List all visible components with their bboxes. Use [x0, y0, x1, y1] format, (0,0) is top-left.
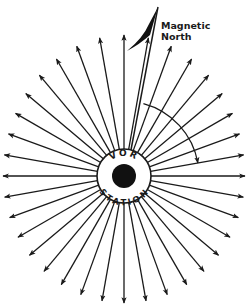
radial-arrow-340	[77, 46, 115, 150]
radial-arrow-190	[102, 203, 119, 301]
magnetic-north-label: Magnetic North	[161, 20, 210, 42]
bearing-arc	[143, 104, 197, 163]
station-dot	[112, 164, 136, 188]
radial-arrow-260	[5, 181, 98, 197]
radial-arrow-250	[10, 185, 99, 217]
radial-arrow-280	[4, 155, 97, 171]
magnetic-north-pointer-icon	[127, 7, 158, 150]
radial-arrow-290	[9, 134, 99, 167]
radial-arrow-20	[133, 46, 171, 150]
radial-arrow-170	[129, 203, 146, 301]
radial-arrow-160	[133, 201, 167, 294]
radial-arrow-200	[81, 201, 115, 294]
radial-arrow-350	[100, 38, 120, 150]
vor-diagram: VOR STATION	[0, 0, 248, 307]
bearing-arc-path	[143, 104, 197, 163]
radial-arrow-100	[151, 181, 244, 197]
radial-arrow-110	[149, 185, 238, 217]
magnetic-north-label-line1: Magnetic	[161, 20, 210, 31]
radial-arrow-10	[129, 38, 149, 150]
magnetic-north-label-line2: North	[161, 31, 210, 42]
